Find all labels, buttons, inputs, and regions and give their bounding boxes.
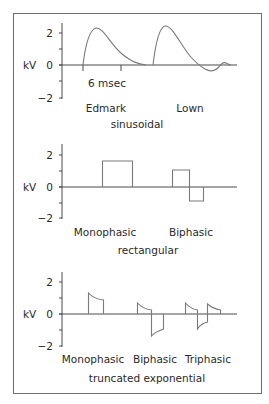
panel-caption: rectangular	[118, 244, 179, 256]
y-tick-label-neg2: −2	[38, 92, 53, 104]
y-axis-label: kV	[23, 59, 37, 71]
waveform-label-monophasic: Monophasic	[62, 353, 125, 365]
panel-truncated-exponential: 2 0 −2 kV Monophasic Biphasic Triphasic …	[23, 272, 237, 384]
biphasic-rectangular-waveform	[173, 170, 204, 201]
y-axis-label: kV	[23, 308, 37, 320]
waveform-label-lown: Lown	[176, 102, 203, 114]
y-tick-label-0: 0	[46, 181, 53, 193]
panel-caption: sinusoidal	[111, 118, 164, 130]
biphasic-truncated-waveform	[138, 303, 164, 336]
y-tick-label-2: 2	[46, 27, 53, 39]
waveform-label-biphasic: Biphasic	[133, 353, 177, 365]
y-tick-label-2: 2	[46, 276, 53, 288]
triphasic-truncated-waveform	[186, 303, 221, 329]
y-tick-label-0: 0	[46, 59, 53, 71]
waveform-label-biphasic: Biphasic	[169, 226, 213, 238]
y-tick-label-neg2: −2	[38, 340, 53, 352]
waveform-label-triphasic: Triphasic	[184, 353, 231, 365]
panel-sinusoidal: 2 0 −2 kV 6 msec Edmark Lown sinusoidal	[23, 23, 237, 130]
y-tick-label-2: 2	[46, 149, 53, 161]
monophasic-truncated-waveform	[89, 293, 104, 314]
edmark-waveform	[83, 28, 146, 65]
monophasic-rectangular-waveform	[103, 161, 133, 187]
waveform-label-edmark: Edmark	[86, 102, 127, 114]
waveform-label-monophasic: Monophasic	[74, 226, 137, 238]
y-tick-label-0: 0	[46, 308, 53, 320]
y-tick-label-neg2: −2	[38, 212, 53, 224]
lown-waveform	[153, 26, 231, 71]
defibrillation-waveforms-diagram: 2 0 −2 kV 6 msec Edmark Lown sinusoidal …	[0, 0, 269, 404]
y-axis-label: kV	[23, 181, 37, 193]
panel-rectangular: 2 0 −2 kV Monophasic Biphasic rectangula…	[23, 144, 237, 256]
panel-caption: truncated exponential	[89, 372, 205, 384]
time-marker-label: 6 msec	[88, 77, 126, 89]
